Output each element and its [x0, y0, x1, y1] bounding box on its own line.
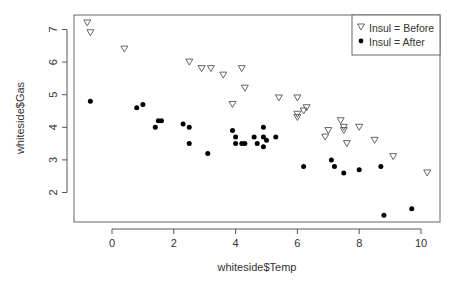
- filled-circle-marker: [341, 170, 346, 175]
- triangle-down-marker: [322, 134, 329, 140]
- triangle-down-marker: [121, 46, 128, 52]
- filled-circle-marker: [378, 164, 383, 169]
- filled-circle-marker: [233, 141, 238, 146]
- filled-circle-marker: [332, 164, 337, 169]
- y-tick-label: 3: [47, 157, 59, 163]
- filled-circle-marker: [261, 125, 266, 130]
- x-tick-label: 6: [294, 237, 300, 249]
- filled-circle-marker: [187, 125, 192, 130]
- triangle-down-marker: [424, 170, 431, 176]
- x-tick-label: 8: [356, 237, 362, 249]
- x-tick-label: 4: [233, 237, 239, 249]
- filled-circle-marker: [181, 122, 186, 127]
- triangle-down-marker: [220, 72, 227, 78]
- x-tick-label: 10: [415, 237, 427, 249]
- y-axis: 234567: [47, 26, 67, 195]
- filled-circle-marker: [134, 105, 139, 110]
- triangle-down-marker: [238, 66, 245, 72]
- triangle-down-marker: [356, 124, 363, 130]
- y-tick-label: 2: [47, 189, 59, 195]
- filled-circle-marker: [264, 138, 269, 143]
- y-tick-label: 5: [47, 92, 59, 98]
- y-tick-label: 6: [47, 59, 59, 65]
- triangle-down-marker: [87, 30, 94, 36]
- y-tick-label: 7: [47, 26, 59, 32]
- x-tick-label: 2: [171, 237, 177, 249]
- triangle-down-marker: [371, 137, 378, 143]
- triangle-down-marker: [325, 128, 332, 134]
- filled-circle-marker: [153, 125, 158, 130]
- x-axis-label: whiteside$Temp: [217, 261, 297, 273]
- triangle-down-marker: [343, 141, 350, 147]
- series-after-markers: [88, 99, 414, 218]
- legend-label-after: Insul = After: [369, 36, 425, 48]
- triangle-down-marker: [229, 101, 236, 107]
- filled-circle-marker: [140, 102, 145, 107]
- triangle-down-marker: [294, 95, 301, 101]
- y-tick-label: 4: [47, 124, 59, 130]
- filled-circle-marker: [409, 206, 414, 211]
- filled-circle-marker: [357, 167, 362, 172]
- filled-circle-marker: [233, 135, 238, 140]
- triangle-down-marker: [198, 66, 205, 72]
- legend-label-before: Insul = Before: [369, 22, 434, 34]
- triangle-down-marker: [186, 59, 193, 65]
- filled-circle-marker: [88, 99, 93, 104]
- filled-circle-marker: [261, 144, 266, 149]
- filled-circle-marker: [242, 141, 247, 146]
- triangle-down-marker: [390, 154, 397, 160]
- filled-circle-marker: [187, 141, 192, 146]
- filled-circle-marker: [273, 135, 278, 140]
- filled-circle-marker: [205, 151, 210, 156]
- filled-circle-marker: [381, 213, 386, 218]
- filled-circle-marker: [255, 141, 260, 146]
- triangle-down-marker: [241, 85, 248, 91]
- filled-circle-marker: [301, 164, 306, 169]
- triangle-down-marker: [275, 95, 282, 101]
- scatter-chart: 0246810 234567 whiteside$Temp whiteside$…: [0, 0, 462, 285]
- triangle-down-marker: [337, 118, 344, 124]
- filled-circle-icon: [359, 39, 364, 44]
- legend: Insul = Before Insul = After: [352, 15, 440, 55]
- triangle-down-marker: [84, 20, 91, 26]
- filled-circle-marker: [252, 135, 257, 140]
- filled-circle-marker: [159, 118, 164, 123]
- x-tick-label: 0: [109, 237, 115, 249]
- triangle-down-marker: [207, 66, 214, 72]
- x-axis: 0246810: [109, 229, 427, 249]
- y-axis-label: whiteside$Gas: [14, 81, 26, 155]
- filled-circle-marker: [329, 157, 334, 162]
- filled-circle-marker: [230, 128, 235, 133]
